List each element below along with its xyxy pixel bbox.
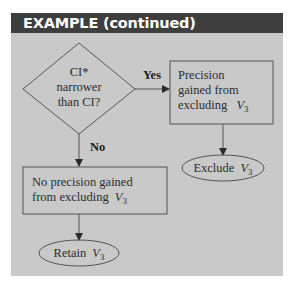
no-edge: No [79,134,105,166]
no-label: No [90,140,105,154]
retain-oval: Retain V3 [39,240,119,266]
precision-gained-box: Precision gained from excluding V3 [170,61,273,124]
svg-text:from excluding V3: from excluding V3 [32,190,127,206]
flowchart: CI* narrower than CI? Yes No Precision g… [0,0,294,288]
variable-subscript: 3 [100,252,105,262]
svg-text:Retain V3: Retain V3 [54,246,105,262]
decision-line-1: CI* [70,65,89,79]
decision-line-2: narrower [56,80,102,94]
exclude-text: Exclude [193,161,234,175]
no-precision-line-1: No precision gained [32,175,133,189]
svg-text:excluding V3: excluding V3 [178,98,249,114]
variable-subscript: 3 [122,196,127,206]
yes-label: Yes [143,68,161,82]
precision-line-1: Precision [178,68,225,82]
precision-line-2: gained from [178,83,239,97]
precision-line-3: excluding [178,98,228,112]
variable-subscript: 3 [248,167,253,177]
exclude-oval: Exclude V3 [182,155,264,181]
decision-line-3: than CI? [58,95,101,109]
decision-diamond: CI* narrower than CI? [23,43,135,134]
no-precision-box: No precision gained from excluding V3 [23,167,167,214]
svg-text:Exclude V3: Exclude V3 [193,161,253,177]
retain-text: Retain [54,246,87,260]
yes-edge: Yes [135,68,169,89]
variable-subscript: 3 [244,104,249,114]
no-precision-line-2: from excluding [32,190,109,204]
